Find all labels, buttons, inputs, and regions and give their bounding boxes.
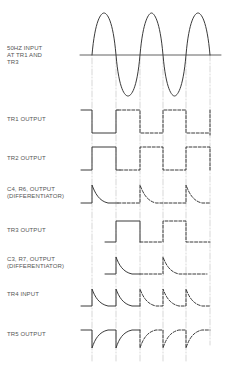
waveform-tr3-output xyxy=(105,221,210,242)
waveform-tr4-input xyxy=(81,289,210,306)
waveform-tr1-output xyxy=(81,110,210,135)
waveform-tr2-output xyxy=(81,147,210,170)
waveform-c3-r7-output xyxy=(105,257,207,274)
guide-lines xyxy=(92,55,210,362)
waveform-tr5-output xyxy=(81,330,210,348)
waveform-canvas xyxy=(0,0,225,375)
waveform-sine-input xyxy=(80,13,221,96)
waveform-c4-r6-output xyxy=(81,185,210,203)
